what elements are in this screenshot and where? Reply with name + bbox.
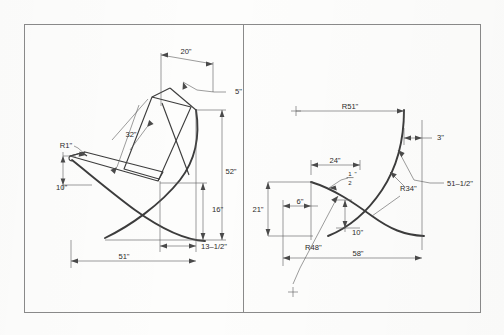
sheet-background [0, 0, 504, 335]
dim-label-chord-length: 51–1/2" [447, 179, 473, 188]
drawing-sheet: 20" 5" 32" R1" 10" 52" 16" 13–1/2" 51" [0, 0, 504, 335]
dim-label-overall-span: 58" [352, 249, 363, 258]
dim-label-lower-radius: R48" [305, 243, 322, 252]
dim-label-mid-radius: R34" [400, 184, 417, 193]
dim-label-back-length: 32" [125, 130, 136, 139]
dim-label-overall-depth: 51" [118, 252, 129, 261]
dim-label-seat-height: 16" [212, 205, 223, 214]
dim-label-cross-gap: 10" [352, 228, 363, 237]
drawing-canvas: 20" 5" 32" R1" 10" 52" 16" 13–1/2" 51" [0, 0, 504, 335]
dim-label-arm-radius: R1" [60, 141, 73, 150]
dim-label-top-offset: 3" [437, 133, 444, 142]
dim-label-upper-radius: R51" [342, 102, 359, 111]
dim-label-upper-span: 24" [329, 156, 340, 165]
dim-label-back-thickness: 5" [235, 87, 242, 96]
dim-label-top-width: 20" [180, 47, 191, 56]
fraction-unit: " [355, 171, 357, 177]
dim-label-seat-front-rise: 10" [56, 183, 67, 192]
dim-label-overall-height: 52" [225, 167, 236, 176]
dim-label-left-height: 21" [252, 205, 263, 214]
dim-label-left-offset: 6" [297, 197, 304, 206]
dim-label-rear-offset: 13–1/2" [201, 242, 227, 251]
